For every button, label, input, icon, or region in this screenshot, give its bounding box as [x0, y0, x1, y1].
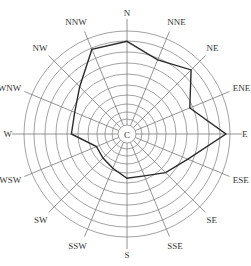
wind-frequency-polygon	[71, 41, 226, 178]
direction-label-ene: ENE	[233, 83, 251, 93]
direction-label-nne: NNE	[167, 17, 186, 27]
direction-label-ssw: SSW	[68, 241, 87, 251]
direction-label-ne: NE	[207, 43, 219, 53]
direction-label-s: S	[124, 250, 129, 260]
direction-label-sse: SSE	[167, 241, 183, 251]
direction-label-sw: SW	[34, 215, 48, 225]
center-label: C	[124, 130, 130, 140]
direction-label-wnw: WNW	[0, 83, 22, 93]
direction-label-e: E	[242, 129, 248, 139]
direction-label-nw: NW	[32, 43, 47, 53]
wind-rose-chart: NNNENEENEEESESESSESSSWSWWSWWWNWNWNNW C	[0, 0, 251, 266]
direction-label-wsw: WSW	[0, 175, 22, 185]
direction-label-w: W	[4, 129, 13, 139]
direction-label-n: N	[124, 8, 131, 18]
direction-label-ese: ESE	[233, 175, 250, 185]
direction-label-se: SE	[207, 215, 218, 225]
direction-label-nnw: NNW	[65, 17, 87, 27]
